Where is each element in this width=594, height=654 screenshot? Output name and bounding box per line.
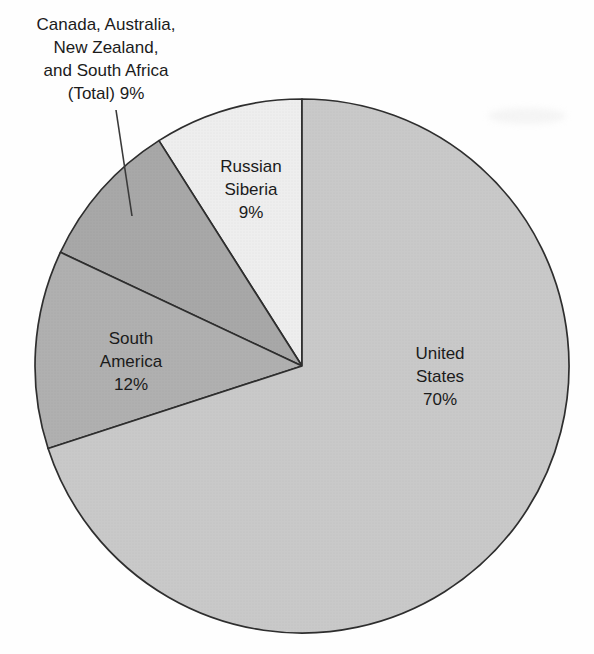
slice-label-russian-siberia: Russian Siberia 9% (186, 155, 316, 224)
slice-label-south-america: South America 12% (66, 327, 196, 396)
pie-chart-figure: Canada, Australia, New Zealand, and Sout… (0, 0, 594, 654)
scan-smudge-artifact (488, 108, 566, 124)
slice-label-united-states: United States 70% (375, 342, 505, 411)
slice-label-canada-australia-new-zealand-south-africa: Canada, Australia, New Zealand, and Sout… (6, 13, 206, 105)
